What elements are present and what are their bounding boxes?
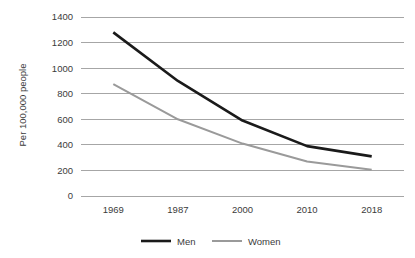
chart-legend: MenWomen bbox=[141, 236, 281, 247]
chart-canvas: 0200400600800100012001400 19691987200020… bbox=[0, 0, 415, 258]
x-axis-tick-label: 2000 bbox=[232, 204, 253, 215]
x-axis-tick-label: 1969 bbox=[103, 204, 124, 215]
x-axis-tick-label: 2018 bbox=[361, 204, 382, 215]
series-line-men bbox=[113, 32, 371, 156]
y-axis-title: Per 100,000 people bbox=[17, 64, 28, 147]
y-axis-tick-label: 200 bbox=[57, 165, 73, 176]
series-line-women bbox=[113, 84, 371, 170]
y-axis-tick-label: 0 bbox=[68, 190, 73, 201]
y-axis-tick-label: 1400 bbox=[52, 11, 73, 22]
legend-label-women: Women bbox=[248, 236, 281, 247]
legend-label-men: Men bbox=[177, 236, 195, 247]
x-axis-tick-label: 1987 bbox=[167, 204, 188, 215]
y-axis-tick-label: 400 bbox=[57, 139, 73, 150]
y-axis-tick-label: 1000 bbox=[52, 63, 73, 74]
y-axis-tick-labels: 0200400600800100012001400 bbox=[52, 11, 73, 201]
series-lines bbox=[113, 32, 371, 169]
x-axis-tick-label: 2010 bbox=[297, 204, 318, 215]
x-axis-tick-labels: 19691987200020102018 bbox=[103, 204, 383, 215]
y-axis-tick-label: 1200 bbox=[52, 37, 73, 48]
y-axis-tick-label: 600 bbox=[57, 114, 73, 125]
y-axis-tick-label: 800 bbox=[57, 88, 73, 99]
line-chart: 0200400600800100012001400 19691987200020… bbox=[0, 0, 415, 258]
